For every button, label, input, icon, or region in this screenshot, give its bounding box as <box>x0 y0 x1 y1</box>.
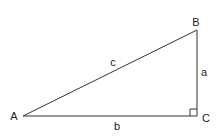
right-angle-marker-icon <box>190 109 197 116</box>
vertex-label-c: C <box>202 113 210 124</box>
side-label-a: a <box>201 67 207 78</box>
side-c-hypotenuse <box>23 30 197 116</box>
vertex-label-a: A <box>10 111 17 122</box>
triangle-figure <box>0 0 218 140</box>
side-label-b: b <box>114 121 120 132</box>
triangle-diagram: A B C a b c <box>0 0 218 140</box>
vertex-label-b: B <box>192 17 199 28</box>
side-label-c: c <box>110 57 116 68</box>
